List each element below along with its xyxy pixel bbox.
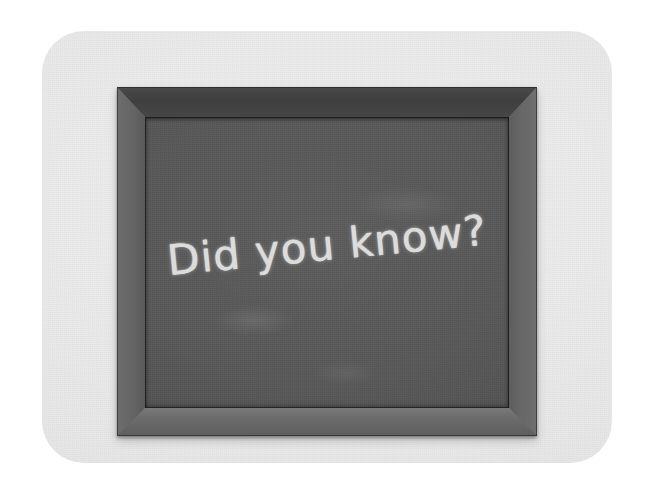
scene-canvas: Did you know? — [0, 0, 648, 495]
slate-surface: Did you know? — [145, 117, 509, 408]
chalk-message: Did you know? — [145, 204, 509, 288]
frame-rail-top — [117, 87, 537, 117]
frame-rail-left — [117, 87, 145, 436]
chalkboard: Did you know? — [117, 87, 537, 436]
frame-rail-bottom — [117, 408, 537, 436]
frame-rail-right — [509, 87, 537, 436]
